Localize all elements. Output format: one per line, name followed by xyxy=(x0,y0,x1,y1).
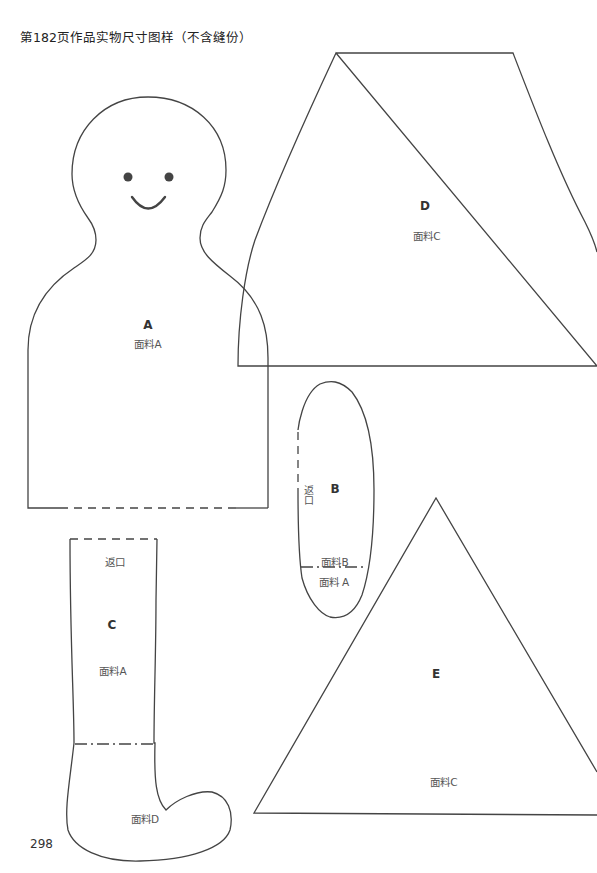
piece-a-fabric: 面料A xyxy=(134,336,161,351)
page-number: 298 xyxy=(30,837,53,851)
piece-a-letter: A xyxy=(143,318,152,332)
pattern-drawing xyxy=(0,0,597,873)
piece-d-outline xyxy=(238,53,597,366)
piece-c-letter: C xyxy=(108,618,117,632)
piece-d-letter: D xyxy=(420,199,430,213)
piece-b-letter: B xyxy=(330,482,339,496)
piece-b-fabric-top: 面料B xyxy=(321,554,348,569)
piece-c-fabric-top: 面料A xyxy=(99,663,126,678)
piece-e-letter: E xyxy=(432,667,440,681)
right-eye-icon xyxy=(165,173,174,182)
piece-e-outline xyxy=(254,498,597,815)
left-eye-icon xyxy=(124,173,133,182)
piece-e-fabric: 面料C xyxy=(430,774,457,789)
smile-icon xyxy=(132,197,165,209)
piece-a-outline xyxy=(28,97,268,508)
piece-d-fabric: 面料C xyxy=(413,228,440,243)
piece-c-opening-label: 返口 xyxy=(105,554,125,569)
piece-b-opening-label: 返口 xyxy=(302,485,312,505)
piece-c-fabric-bottom: 面料D xyxy=(131,811,159,826)
piece-b-fabric-bottom: 面料 A xyxy=(319,574,350,589)
